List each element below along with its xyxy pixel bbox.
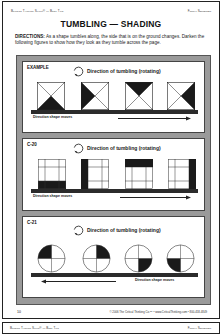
example-shape-4 (167, 82, 195, 110)
page-title: TUMBLING — SHADING (3, 19, 219, 29)
example-shape-1 (37, 82, 65, 110)
c20-shape-3 (125, 159, 153, 189)
panel-c20: C-20 Direction of tumbling (rotating) (22, 138, 205, 211)
section-title: Figural Sequences (188, 9, 211, 13)
worksheet-page: Building Thinking Skills® — Book Two Fig… (2, 1, 220, 319)
next-book-title: Building Thinking Skills® — Book Two (10, 326, 59, 330)
arrow-right-icon (120, 197, 188, 198)
ground-line (31, 110, 198, 114)
directions: DIRECTIONS: As a shape tumbles along, th… (15, 34, 211, 46)
example-shape-3 (125, 82, 153, 110)
panel-c21: C-21 Direction of tumbling (rotating) (22, 216, 205, 298)
arrow-left-icon (44, 281, 116, 282)
panel-example: EXAMPLE Direction of tumbling (rotating) (22, 61, 205, 133)
rotate-clockwise-icon (73, 225, 84, 236)
directions-label: DIRECTIONS: (15, 34, 45, 39)
rotation-label: Direction of tumbling (rotating) (87, 145, 161, 151)
ground-line (31, 273, 198, 277)
panel-label: C-21 (27, 220, 37, 225)
example-shape-2 (81, 82, 109, 110)
c21-shape-1 (37, 244, 66, 273)
moves-label: Direction shape moves (33, 115, 72, 119)
next-page-header: Building Thinking Skills® — Book Two Fig… (2, 322, 220, 334)
page-number: 10 (17, 310, 21, 314)
arrowhead-right-icon (186, 195, 191, 200)
exercise-frame: EXAMPLE Direction of tumbling (rotating) (16, 55, 211, 305)
rotation-label: Direction of tumbling (rotating) (87, 68, 161, 74)
c21-shape-3 (124, 244, 153, 273)
arrowhead-right-icon (186, 116, 191, 121)
c21-shape-2 (82, 244, 111, 273)
c20-shape-4 (168, 159, 196, 189)
panel-label: EXAMPLE (27, 65, 49, 70)
copyright: © 2006 The Critical Thinking Co.™ • www.… (110, 310, 208, 314)
arrow-right-icon (118, 118, 188, 119)
next-section-title: Figural Sequences (188, 326, 211, 330)
c20-shape-2 (81, 159, 109, 189)
moves-label: Direction shape moves (33, 194, 72, 198)
rotation-label: Direction of tumbling (rotating) (87, 227, 161, 233)
book-title: Building Thinking Skills® — Book Two (11, 9, 63, 13)
c21-shape-4 (166, 244, 195, 273)
rotate-clockwise-icon (73, 143, 84, 154)
c20-shape-1 (38, 159, 66, 189)
moves-label: Direction shape moves (135, 278, 174, 282)
panel-label: C-20 (27, 142, 37, 147)
ground-line (31, 189, 198, 193)
rotate-clockwise-icon (73, 66, 84, 77)
